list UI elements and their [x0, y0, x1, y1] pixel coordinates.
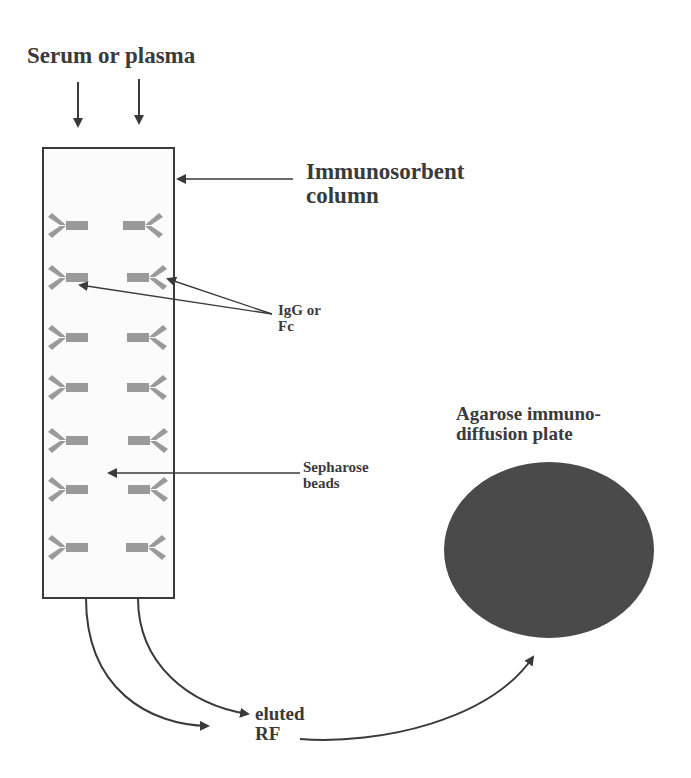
label-agarose-plate: Agarose immuno- diffusion plate: [456, 404, 601, 444]
immunosorbent-column: [43, 148, 174, 598]
agarose-plate: [444, 462, 654, 638]
label-eluted-rf: eluted RF: [255, 704, 305, 744]
label-immunosorbent-column: Immunosorbent column: [306, 160, 464, 208]
diagram-canvas: Serum or plasma Immunosorbent column IgG…: [0, 0, 691, 778]
label-sepharose-beads: Sepharose beads: [303, 460, 369, 492]
input-arrows: [78, 79, 139, 126]
elution-arrows: [86, 598, 533, 740]
diagram-graphics: [0, 0, 691, 778]
label-serum-or-plasma: Serum or plasma: [27, 44, 195, 68]
label-igg-or-fc: IgG or Fc: [278, 303, 321, 335]
